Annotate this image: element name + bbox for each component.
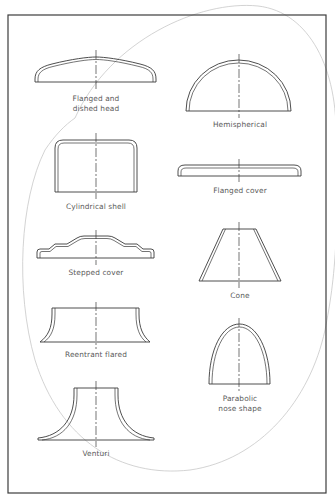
label-reentrant-flared: Reentrant flared	[65, 350, 127, 360]
label-line: nose shape	[218, 404, 261, 414]
parabolic-nose-shape	[209, 318, 270, 391]
label-line: dished head	[73, 104, 120, 114]
pressed-shapes-diagram	[0, 0, 335, 500]
label-venturi: Venturi	[82, 449, 109, 459]
label-flanged-dished-head: Flanged and dished head	[73, 94, 120, 114]
label-line: Parabolic	[218, 394, 261, 404]
label-cylindrical-shell: Cylindrical shell	[66, 202, 126, 212]
label-line: Hemispherical	[213, 120, 267, 130]
label-flanged-cover: Flanged cover	[213, 186, 267, 196]
flanged-cover-shape	[178, 159, 301, 182]
label-line: Flanged cover	[213, 186, 267, 196]
venturi-shape	[38, 381, 154, 447]
background-ellipse	[23, 5, 335, 471]
label-hemispherical: Hemispherical	[213, 120, 267, 130]
cylindrical-shell-shape	[55, 133, 137, 199]
label-parabolic-nose-shape: Parabolic nose shape	[218, 394, 261, 414]
label-line: Cylindrical shell	[66, 202, 126, 212]
label-cone: Cone	[230, 291, 249, 301]
diagram-frame	[8, 15, 326, 493]
label-line: Stepped cover	[69, 268, 124, 278]
label-stepped-cover: Stepped cover	[69, 268, 124, 278]
stepped-cover-shape	[37, 230, 154, 265]
label-line: Reentrant flared	[65, 350, 127, 360]
cone-shape	[199, 222, 281, 288]
reentrant-flared-shape	[40, 302, 150, 349]
label-line: Flanged and	[73, 94, 120, 104]
hemispherical-shape	[186, 54, 291, 118]
label-line: Cone	[230, 291, 249, 301]
label-line: Venturi	[82, 449, 109, 459]
